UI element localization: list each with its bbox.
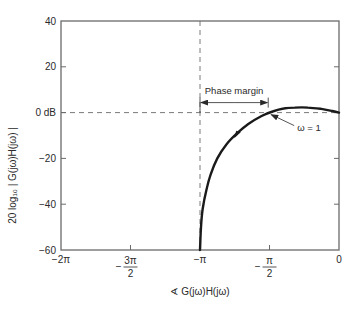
reference-lines [61, 21, 339, 250]
plot-frame [61, 21, 339, 250]
fraction-sign: − [116, 261, 122, 272]
y-axis-label: 20 log₁₀ | G(jω)H(jω) | [7, 127, 18, 224]
x-tick-label: 0 [336, 254, 342, 265]
x-tick-label-fraction: −3π2 [116, 255, 138, 279]
fraction-denominator: 2 [267, 268, 273, 279]
y-tick-label: −20 [39, 153, 56, 164]
x-axis-label: ∢ G(jω)H(jω) [170, 286, 229, 297]
y-tick-labels: 40200 dB−20−40−60 [35, 16, 56, 256]
fraction-numerator: 3π [124, 255, 137, 266]
omega-pointer-arrow [271, 115, 294, 126]
y-tick-label: 20 [45, 61, 57, 72]
y-tick-label: −40 [39, 199, 56, 210]
omega-label: ω = 1 [297, 122, 321, 133]
phase-margin-label: Phase margin [205, 85, 264, 96]
x-tick-label: −π [194, 254, 207, 265]
fraction-numerator: π [266, 255, 273, 266]
fraction-denominator: 2 [128, 268, 134, 279]
y-tick-label: 0 dB [35, 107, 56, 118]
y-tick-label: 40 [45, 16, 57, 27]
x-tick-label: −2π [52, 254, 70, 265]
bode-gain-phase-chart: 40200 dB−20−40−60 −2π−3π2−π−π20 Phase ma… [0, 0, 357, 310]
x-tick-labels: −2π−3π2−π−π20 [52, 254, 342, 279]
x-tick-label-fraction: −π2 [255, 255, 277, 279]
fraction-sign: − [255, 261, 261, 272]
